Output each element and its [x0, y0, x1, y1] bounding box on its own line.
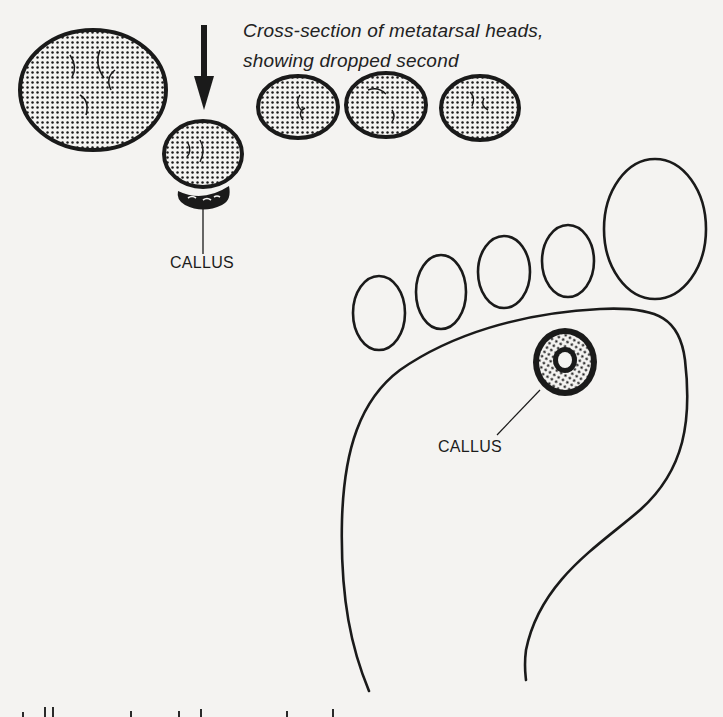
metatarsal-head-first [20, 30, 166, 150]
callus-leader-line-2 [497, 390, 540, 435]
callus-on-sole [533, 328, 597, 396]
metatarsal-head-fifth [441, 76, 519, 140]
down-arrow-icon [194, 25, 214, 110]
diagram-drawing [0, 0, 723, 717]
figure-caption: Cross-section of metatarsal heads, showi… [243, 16, 543, 76]
toe-fourth [416, 255, 466, 329]
caption-line-2: showing dropped second [243, 46, 543, 76]
metatarsal-head-fourth [346, 73, 426, 137]
callus-label-sole: CALLUS [438, 438, 502, 456]
toe-third [478, 236, 530, 308]
callus-label-cross-section: CALLUS [170, 254, 234, 272]
metatarsal-callus-diagram: Cross-section of metatarsal heads, showi… [0, 0, 723, 717]
callus-cross-section [178, 186, 230, 210]
metatarsal-head-third [258, 76, 338, 138]
toe-second [542, 225, 594, 297]
caption-line-1: Cross-section of metatarsal heads, [243, 16, 543, 46]
foot-outline [342, 309, 688, 691]
toe-fifth [353, 276, 405, 350]
toe-big [604, 159, 706, 299]
cutoff-text-fragments [22, 707, 334, 717]
metatarsal-head-second-dropped [164, 121, 242, 187]
